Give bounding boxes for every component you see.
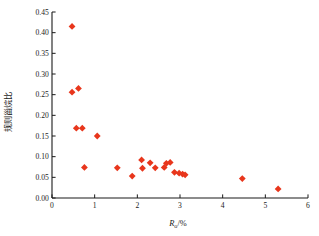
y-tick-label: 0.45 [36, 8, 49, 17]
data-point [152, 164, 159, 171]
y-tick-label: 0.35 [36, 49, 49, 58]
y-tick-label: 0.40 [36, 28, 49, 37]
data-point [129, 173, 136, 180]
chart-canvas: 0.000.050.100.150.200.250.300.350.400.45… [0, 0, 319, 236]
data-point [69, 89, 76, 96]
x-tick-label: 6 [306, 201, 310, 210]
data-point [94, 133, 101, 140]
y-tick-label: 0.10 [36, 152, 49, 161]
x-tick-label: 1 [93, 201, 97, 210]
y-tick-label: 0.05 [36, 173, 49, 182]
data-point [75, 85, 82, 92]
data-point [147, 159, 154, 166]
data-point [81, 164, 88, 171]
data-point [239, 175, 246, 182]
data-point [114, 164, 121, 171]
y-tick-label: 0.30 [36, 70, 49, 79]
data-point [69, 23, 76, 30]
x-tick-label: 3 [178, 201, 182, 210]
y-axis-ticks: 0.000.050.100.150.200.250.300.350.400.45 [36, 8, 56, 203]
y-tick-label: 0.20 [36, 111, 49, 120]
data-point [139, 165, 146, 172]
x-axis-ticks: 0123456 [50, 194, 310, 209]
data-point [138, 157, 145, 164]
x-tick-label: 0 [50, 201, 54, 210]
data-point [79, 125, 86, 132]
x-tick-label: 4 [221, 201, 225, 210]
x-tick-label: 2 [135, 201, 139, 210]
y-tick-label: 0.00 [36, 194, 49, 203]
x-tick-label: 5 [263, 201, 267, 210]
y-axis-title: 规则甾烷比 [3, 92, 13, 132]
scatter-chart: 0.000.050.100.150.200.250.300.350.400.45… [0, 0, 319, 236]
data-points [69, 23, 282, 192]
data-point [275, 186, 282, 193]
y-tick-label: 0.15 [36, 132, 49, 141]
data-point [73, 125, 80, 132]
y-tick-label: 0.25 [36, 90, 49, 99]
x-axis-title: Ro/% [168, 219, 187, 229]
